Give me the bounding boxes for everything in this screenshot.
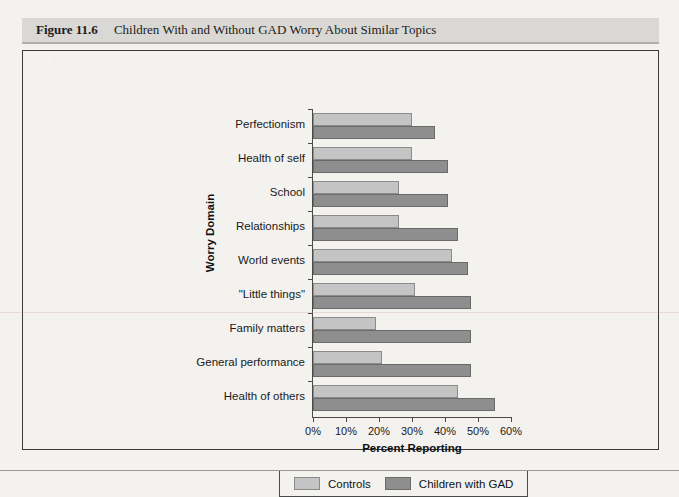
y-axis-label: Family matters — [230, 322, 305, 334]
y-axis-label: World events — [238, 254, 305, 266]
x-axis-tick — [445, 417, 446, 422]
x-axis-tick-label: 10% — [335, 425, 357, 437]
chart-frame: PerfectionismHealth of selfSchoolRelatio… — [22, 50, 659, 450]
x-axis-tick — [511, 417, 512, 422]
x-axis-tick-label: 60% — [500, 425, 522, 437]
legend-swatch-gad-icon — [385, 477, 411, 490]
y-axis-label: Perfectionism — [235, 118, 305, 130]
legend-label-children-with-gad: Children with GAD — [419, 478, 514, 490]
y-axis-category-labels: PerfectionismHealth of selfSchoolRelatio… — [173, 109, 305, 415]
bar-gad — [313, 126, 435, 139]
y-axis-tick — [308, 245, 313, 246]
plot-area — [313, 109, 511, 415]
y-axis-tick — [308, 381, 313, 382]
x-axis-tick-label: 0% — [305, 425, 321, 437]
legend-item-controls: Controls — [294, 477, 371, 490]
bar-controls — [313, 249, 452, 262]
bar-controls — [313, 147, 412, 160]
bar-gad — [313, 228, 458, 241]
bar-gad — [313, 398, 495, 411]
y-axis-tick — [308, 143, 313, 144]
figure-title: Children With and Without GAD Worry Abou… — [114, 22, 436, 38]
bar-gad — [313, 262, 468, 275]
bar-gad — [313, 330, 471, 343]
y-axis-label: School — [270, 186, 305, 198]
y-axis-label: Relationships — [236, 220, 305, 232]
bar-controls — [313, 351, 382, 364]
x-axis-tick — [412, 417, 413, 422]
x-axis-ticks: 0%10%20%30%40%50%60% — [312, 417, 512, 423]
y-axis-label: Health of self — [238, 152, 305, 164]
x-axis-tick-label: 40% — [434, 425, 456, 437]
y-axis-tick — [308, 347, 313, 348]
bar-controls — [313, 215, 399, 228]
y-axis-tick — [308, 109, 313, 110]
x-axis-tick — [346, 417, 347, 422]
bar-controls — [313, 385, 458, 398]
y-axis-tick — [308, 177, 313, 178]
x-axis-tick — [313, 417, 314, 422]
legend-swatch-controls-icon — [294, 477, 320, 490]
y-axis-title: Worry Domain — [204, 194, 216, 272]
bar-gad — [313, 194, 448, 207]
y-axis-label: "Little things" — [239, 288, 305, 300]
x-axis-tick — [478, 417, 479, 422]
page-footer-rule — [0, 470, 679, 471]
figure-number: Figure 11.6 — [36, 22, 98, 38]
x-axis-tick — [379, 417, 380, 422]
y-axis-tick — [308, 279, 313, 280]
legend-label-controls: Controls — [328, 478, 371, 490]
legend-item-children-with-gad: Children with GAD — [385, 477, 514, 490]
x-axis-tick-label: 30% — [401, 425, 423, 437]
bar-controls — [313, 283, 415, 296]
y-axis-label: General performance — [196, 356, 305, 368]
x-axis-tick-label: 50% — [467, 425, 489, 437]
x-axis-title: Percent Reporting — [313, 442, 511, 454]
bar-gad — [313, 364, 471, 377]
bar-gad — [313, 296, 471, 309]
bar-controls — [313, 181, 399, 194]
y-axis-tick — [308, 211, 313, 212]
chart-legend: Controls Children with GAD — [279, 470, 528, 497]
figure-caption-bar: Figure 11.6 Children With and Without GA… — [22, 18, 659, 44]
y-axis-tick — [308, 313, 313, 314]
bar-gad — [313, 160, 448, 173]
x-axis-tick-label: 20% — [368, 425, 390, 437]
bar-controls — [313, 113, 412, 126]
bar-controls — [313, 317, 376, 330]
y-axis-label: Health of others — [224, 390, 305, 402]
